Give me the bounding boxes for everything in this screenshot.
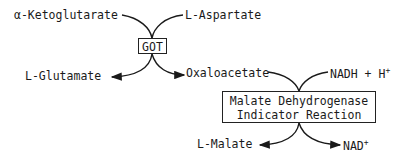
arrow-nad-out [299,123,340,145]
arrow-nadh-in [299,72,328,91]
label-nadh-h-sup: + [385,66,390,75]
label-alpha-ketoglutarate: α-Ketoglutarate [14,10,118,22]
label-l-malate: L-Malate [197,139,252,151]
arrow-glutamate-out [112,54,152,77]
arrow-ketoglutarate-in [122,15,152,38]
arrow-malate-out [260,123,299,145]
label-nad-sup: + [364,138,369,147]
label-nadh-h-text: NADH + H [330,67,385,81]
enzyme-box-got: GOT [138,38,167,54]
label-oxaloacetate: Oxaloacetate [186,68,269,80]
arrow-oxaloacetate-out [152,54,184,75]
label-nad-text: NAD [343,139,364,153]
mdh-line1: Malate Dehydrogenase [223,94,375,108]
label-nad: NAD+ [343,139,369,153]
arrow-aspartate-in [152,15,183,38]
label-nadh-h: NADH + H+ [330,67,390,81]
label-l-aspartate: L-Aspartate [185,10,261,22]
label-l-glutamate: L-Glutamate [25,71,101,83]
enzyme-got-label: GOT [142,40,163,54]
enzyme-box-malate-dehydrogenase: Malate Dehydrogenase Indicator Reaction [222,91,376,123]
arrow-oxaloacetate-in [268,72,299,91]
mdh-line2: Indicator Reaction [223,108,375,122]
